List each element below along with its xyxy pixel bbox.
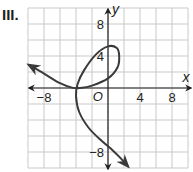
y-axis-label: y — [111, 1, 120, 17]
problem-label: III. — [2, 6, 19, 23]
origin-label: O — [93, 89, 103, 104]
coordinate-graph: III. xyO−84884−8 — [0, 0, 193, 172]
x-tick-label: −8 — [37, 90, 52, 105]
x-tick-label: 4 — [136, 90, 143, 105]
x-tick-label: 8 — [168, 90, 175, 105]
x-axis-label: x — [181, 69, 190, 85]
y-tick-label: 8 — [97, 17, 104, 32]
axes — [29, 9, 191, 169]
y-tick-label: −8 — [89, 145, 104, 160]
